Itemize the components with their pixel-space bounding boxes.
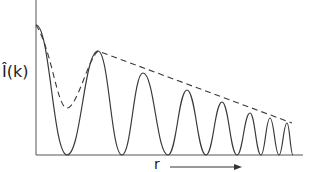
x-axis-label: r xyxy=(154,156,160,172)
y-axis-label: Î(k) xyxy=(2,62,28,81)
dashed-envelope-curve xyxy=(36,25,292,123)
diagram-figure xyxy=(0,0,310,172)
oscillating-curve xyxy=(36,25,293,155)
r-direction-arrow xyxy=(170,164,242,170)
